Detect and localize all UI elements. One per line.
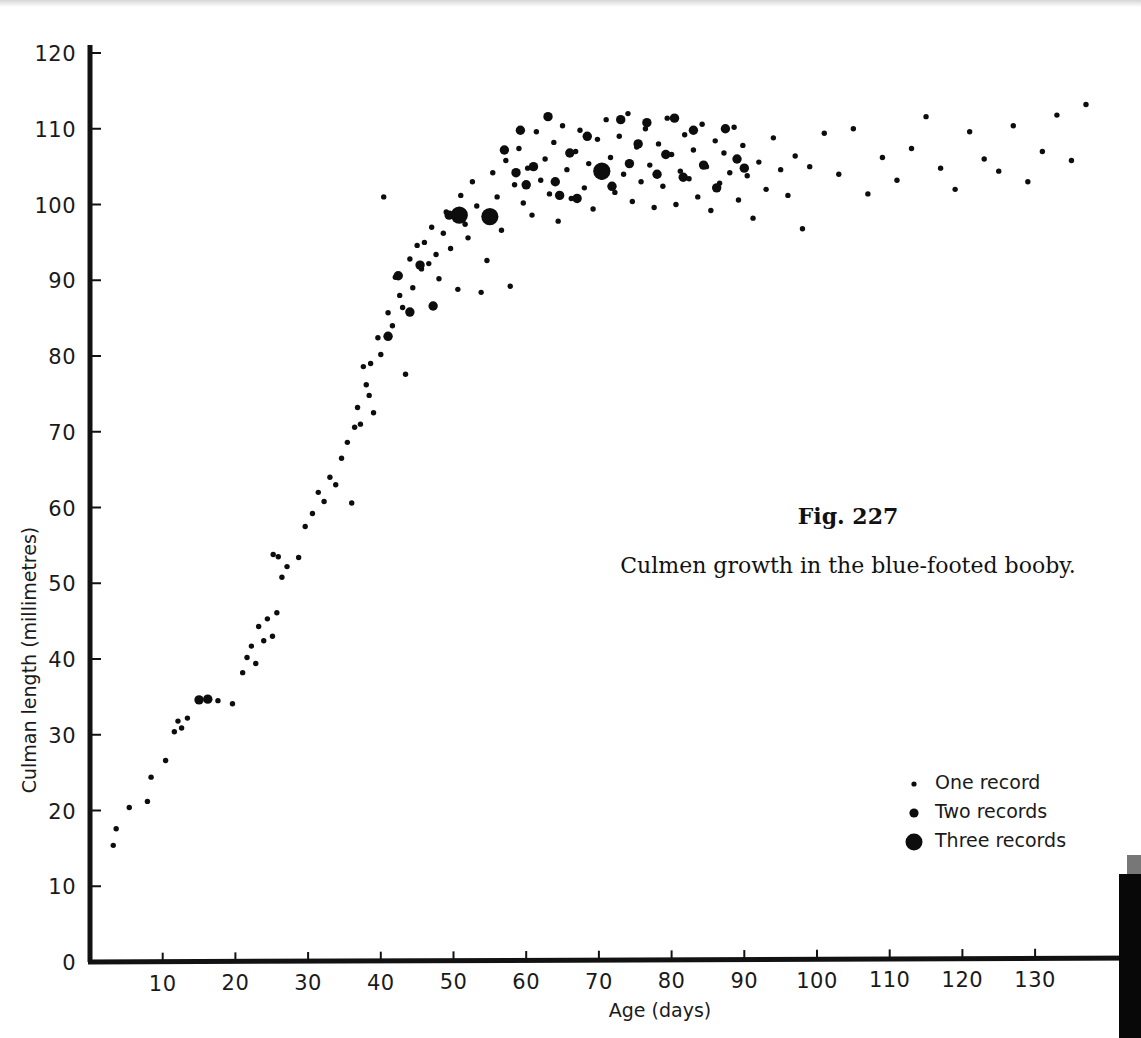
x-tick-label: 90	[730, 969, 758, 993]
x-tick-label: 120	[942, 968, 984, 992]
data-point	[465, 235, 470, 240]
y-tick-label: 0	[62, 951, 76, 975]
data-point	[410, 285, 415, 290]
data-point	[909, 146, 914, 151]
data-point	[203, 694, 212, 703]
data-point	[448, 246, 453, 251]
x-tick-label: 50	[440, 970, 468, 994]
data-point	[564, 167, 569, 172]
data-point	[451, 207, 468, 224]
data-point	[276, 554, 281, 559]
data-point	[607, 182, 616, 191]
data-point	[422, 240, 427, 245]
data-point	[511, 168, 520, 177]
y-axis-title: Culman length (millimetres)	[18, 527, 40, 794]
data-point	[274, 610, 279, 615]
data-point	[414, 243, 419, 248]
data-point	[455, 287, 460, 292]
y-tick-label: 60	[48, 497, 76, 521]
data-point	[647, 162, 652, 167]
x-tick-label: 20	[222, 971, 250, 995]
data-point	[368, 361, 373, 366]
data-point	[249, 643, 254, 648]
data-point	[352, 425, 357, 430]
data-point	[284, 564, 289, 569]
data-point	[407, 256, 412, 261]
data-point	[470, 179, 475, 184]
data-point	[572, 194, 581, 203]
data-point	[721, 150, 726, 155]
data-point	[952, 187, 957, 192]
data-point	[503, 158, 508, 163]
data-point	[179, 725, 184, 730]
data-point	[358, 421, 363, 426]
data-point	[651, 205, 656, 210]
data-point	[240, 670, 245, 675]
legend-marker-medium-dot	[909, 808, 918, 817]
data-point	[253, 661, 258, 666]
data-point	[551, 177, 560, 186]
data-point	[271, 552, 276, 557]
data-point	[403, 371, 408, 376]
data-point	[349, 500, 354, 505]
data-point	[745, 173, 750, 178]
data-point	[1025, 179, 1030, 184]
data-point	[880, 155, 885, 160]
scatter-chart: 102030405060708090100110120130 010203040…	[0, 0, 1141, 1038]
data-point	[366, 393, 371, 398]
data-point	[516, 146, 521, 151]
data-point	[172, 729, 177, 734]
data-point	[695, 194, 700, 199]
data-point	[727, 170, 732, 175]
figure-page: 102030405060708090100110120130 010203040…	[0, 0, 1141, 1038]
x-tick-label: 40	[367, 971, 395, 995]
data-point	[560, 123, 565, 128]
data-point	[185, 715, 190, 720]
data-point	[148, 774, 153, 779]
data-point	[682, 132, 687, 137]
data-point	[713, 138, 718, 143]
y-tick-label: 100	[34, 194, 76, 218]
data-point	[127, 805, 132, 810]
y-tick-label: 90	[48, 269, 76, 293]
y-tick-label: 50	[48, 572, 76, 596]
data-point	[265, 616, 270, 621]
y-tick-label: 120	[34, 42, 76, 66]
data-point	[750, 215, 755, 220]
data-point	[708, 208, 713, 213]
data-point	[822, 131, 827, 136]
data-point	[689, 126, 698, 135]
data-point	[590, 206, 595, 211]
data-point	[256, 624, 261, 629]
data-point	[113, 826, 118, 831]
data-point	[771, 135, 776, 140]
data-point	[521, 200, 526, 205]
data-points-layer	[111, 102, 1089, 848]
data-point	[656, 141, 661, 146]
page-edge-shadow-upper-artifact	[1127, 855, 1141, 879]
data-point	[529, 162, 538, 171]
data-point	[836, 172, 841, 177]
data-point	[565, 148, 574, 157]
data-point	[603, 117, 608, 122]
data-point	[383, 332, 392, 341]
data-point	[586, 161, 591, 166]
data-point	[474, 203, 479, 208]
data-point	[630, 199, 635, 204]
data-point	[145, 799, 150, 804]
data-point	[616, 115, 625, 124]
data-point	[699, 160, 708, 169]
figure-number-label: Fig. 227	[798, 503, 899, 529]
data-point	[595, 137, 600, 142]
data-point	[633, 139, 642, 148]
data-point	[385, 310, 390, 315]
data-point	[279, 574, 284, 579]
data-point	[302, 524, 307, 529]
y-tick-label: 10	[48, 875, 76, 899]
data-point	[516, 126, 525, 135]
data-point	[712, 183, 721, 192]
data-point	[642, 118, 651, 127]
data-point	[583, 132, 592, 141]
data-point	[428, 301, 437, 310]
legend-marker-small-dot	[911, 781, 916, 786]
